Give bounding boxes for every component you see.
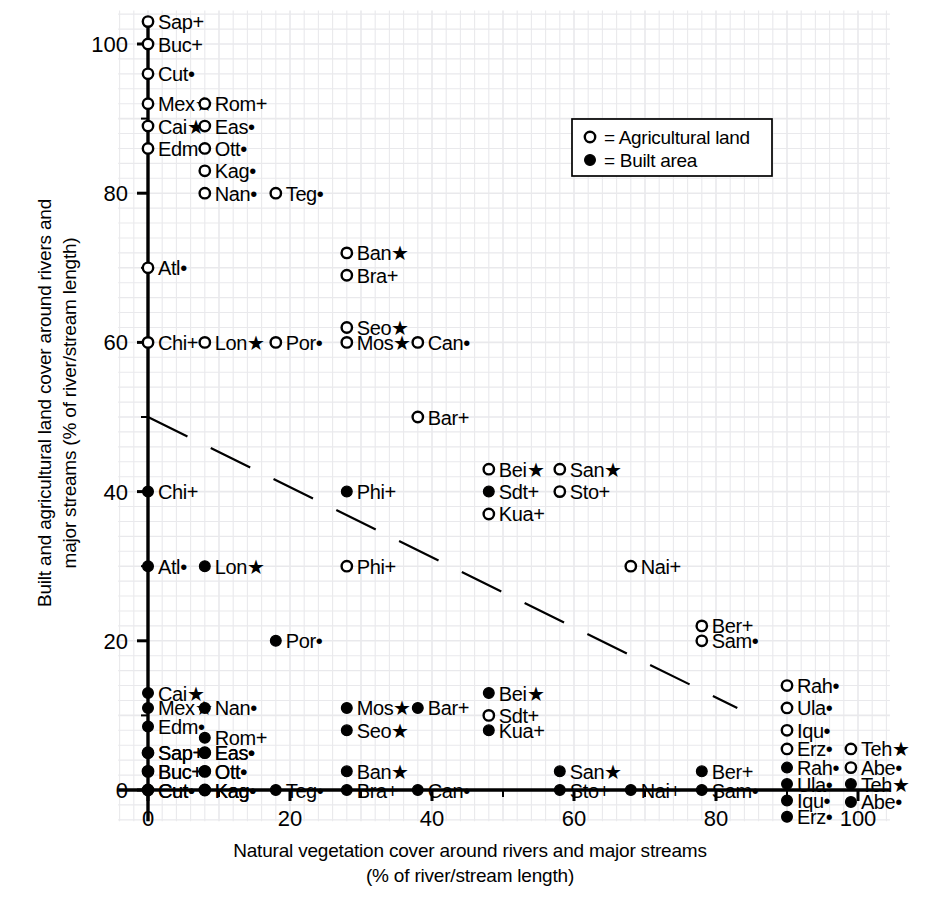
built-area-marker[interactable]: [143, 747, 154, 758]
built-area-marker[interactable]: [483, 688, 494, 699]
data-point[interactable]: Bar+: [413, 407, 469, 429]
data-point[interactable]: Mos★: [342, 332, 411, 354]
data-point[interactable]: Ban★: [342, 242, 409, 264]
agricultural-land-marker[interactable]: [200, 143, 210, 153]
built-area-marker[interactable]: [625, 785, 636, 796]
data-point[interactable]: Rah•: [782, 675, 840, 697]
built-area-marker[interactable]: [696, 766, 707, 777]
data-point[interactable]: Sdt+: [483, 481, 539, 503]
data-point[interactable]: Bra+: [341, 780, 398, 802]
data-point[interactable]: Chi+: [143, 481, 198, 503]
agricultural-land-marker[interactable]: [484, 464, 494, 474]
data-point[interactable]: Lon★: [199, 556, 264, 578]
agricultural-land-marker[interactable]: [143, 143, 153, 153]
agricultural-land-marker[interactable]: [342, 270, 352, 280]
built-area-marker[interactable]: [199, 747, 210, 758]
data-point[interactable]: Teg•: [271, 183, 324, 205]
built-area-marker[interactable]: [199, 785, 210, 796]
data-point[interactable]: Sto+: [554, 780, 610, 802]
agricultural-land-marker[interactable]: [200, 98, 210, 108]
built-area-marker[interactable]: [270, 635, 281, 646]
agricultural-land-marker[interactable]: [555, 464, 565, 474]
built-area-marker[interactable]: [341, 703, 352, 714]
data-point[interactable]: Por•: [271, 332, 323, 354]
data-point[interactable]: Can•: [413, 332, 471, 354]
data-point[interactable]: Kua+: [483, 720, 544, 742]
data-point[interactable]: Ott•: [200, 138, 248, 160]
built-area-marker[interactable]: [412, 785, 423, 796]
data-point[interactable]: Buc+: [143, 34, 203, 56]
agricultural-land-marker[interactable]: [413, 337, 423, 347]
built-area-marker[interactable]: [341, 785, 352, 796]
built-area-marker[interactable]: [143, 785, 154, 796]
data-point[interactable]: Lon★: [200, 332, 265, 354]
built-area-marker[interactable]: [846, 779, 857, 790]
built-area-marker[interactable]: [696, 785, 707, 796]
built-area-marker[interactable]: [554, 766, 565, 777]
built-area-marker[interactable]: [483, 725, 494, 736]
built-area-marker[interactable]: [846, 797, 857, 808]
data-point[interactable]: Nai+: [626, 556, 681, 578]
data-point[interactable]: Nai+: [625, 780, 680, 802]
agricultural-land-marker[interactable]: [143, 263, 153, 273]
agricultural-land-marker[interactable]: [143, 69, 153, 79]
data-point[interactable]: Edm•: [143, 138, 205, 160]
built-area-marker[interactable]: [341, 725, 352, 736]
agricultural-land-marker[interactable]: [626, 561, 636, 571]
built-area-marker[interactable]: [782, 811, 793, 822]
built-area-marker[interactable]: [143, 561, 154, 572]
agricultural-land-marker[interactable]: [782, 744, 792, 754]
agricultural-land-marker[interactable]: [342, 248, 352, 258]
agricultural-land-marker[interactable]: [555, 486, 565, 496]
built-area-marker[interactable]: [782, 795, 793, 806]
data-point[interactable]: Sto+: [555, 481, 610, 503]
agricultural-land-marker[interactable]: [697, 621, 707, 631]
data-point[interactable]: Phi+: [342, 556, 396, 578]
built-area-marker[interactable]: [483, 486, 494, 497]
built-area-marker[interactable]: [143, 688, 154, 699]
data-point[interactable]: Seo★: [341, 720, 408, 742]
agricultural-land-marker[interactable]: [143, 39, 153, 49]
data-point[interactable]: Phi+: [341, 481, 395, 503]
data-point[interactable]: Sam•: [697, 630, 759, 652]
agricultural-land-marker[interactable]: [342, 322, 352, 332]
agricultural-land-marker[interactable]: [143, 16, 153, 26]
data-point[interactable]: Erz•: [782, 806, 833, 828]
data-point[interactable]: Can•: [412, 780, 470, 802]
agricultural-land-marker[interactable]: [484, 509, 494, 519]
data-point[interactable]: Sam•: [696, 780, 758, 802]
data-point[interactable]: Nan•: [200, 183, 258, 205]
agricultural-land-marker[interactable]: [413, 412, 423, 422]
agricultural-land-marker[interactable]: [271, 188, 281, 198]
built-area-marker[interactable]: [143, 486, 154, 497]
data-point[interactable]: Chi+: [143, 332, 198, 354]
data-point[interactable]: Cut•: [143, 63, 195, 85]
built-area-marker[interactable]: [143, 703, 154, 714]
agricultural-land-marker[interactable]: [143, 121, 153, 131]
data-point[interactable]: Teg•: [270, 780, 323, 802]
built-area-marker[interactable]: [782, 762, 793, 773]
agricultural-land-marker[interactable]: [143, 337, 153, 347]
agricultural-land-marker[interactable]: [200, 337, 210, 347]
agricultural-land-marker[interactable]: [342, 337, 352, 347]
agricultural-land-marker[interactable]: [342, 561, 352, 571]
built-area-marker[interactable]: [143, 721, 154, 732]
agricultural-land-marker[interactable]: [200, 121, 210, 131]
agricultural-land-marker[interactable]: [200, 166, 210, 176]
agricultural-land-marker[interactable]: [782, 703, 792, 713]
agricultural-land-marker[interactable]: [782, 680, 792, 690]
built-area-marker[interactable]: [199, 703, 210, 714]
built-area-marker[interactable]: [199, 766, 210, 777]
built-area-marker[interactable]: [341, 766, 352, 777]
data-point[interactable]: Por•: [270, 630, 322, 652]
built-area-marker[interactable]: [341, 486, 352, 497]
built-area-marker[interactable]: [270, 785, 281, 796]
data-point[interactable]: Edm•: [143, 716, 205, 738]
agricultural-land-marker[interactable]: [271, 337, 281, 347]
agricultural-land-marker[interactable]: [143, 98, 153, 108]
built-area-marker[interactable]: [554, 785, 565, 796]
agricultural-land-marker[interactable]: [697, 636, 707, 646]
built-area-marker[interactable]: [412, 703, 423, 714]
agricultural-land-marker[interactable]: [484, 710, 494, 720]
agricultural-land-marker[interactable]: [846, 762, 856, 772]
